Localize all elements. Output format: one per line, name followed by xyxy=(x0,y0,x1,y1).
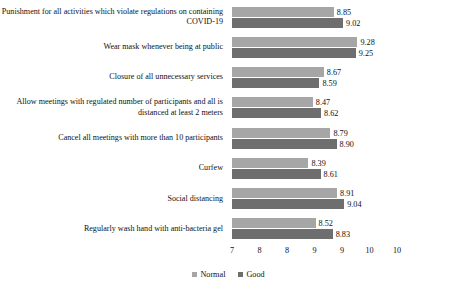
bar-good[interactable]: 8.83 xyxy=(232,229,397,239)
legend-item-good[interactable]: Good xyxy=(238,270,264,279)
bar-fill xyxy=(232,37,357,47)
axis-tick-label: 8 xyxy=(257,246,261,255)
category-label: Cancel all meetings with more than 10 pa… xyxy=(0,125,228,151)
bar-group: 8.398.61 xyxy=(232,155,397,181)
bar-normal[interactable]: 8.79 xyxy=(232,128,397,138)
bar-group: 8.859.02 xyxy=(232,4,397,30)
axis-tick-label: 9 xyxy=(312,246,316,255)
category-label: Closure of all unnecessary services xyxy=(0,65,228,91)
bar-fill xyxy=(232,18,343,28)
bar-value-label: 8.62 xyxy=(321,109,338,118)
category-label: Allow meetings with regulated number of … xyxy=(0,95,228,121)
bar-value-label: 8.52 xyxy=(316,219,333,228)
axis-tick-label: 7 xyxy=(230,246,234,255)
category-axis: Punishment for all activities which viol… xyxy=(0,4,228,242)
bar-good[interactable]: 8.90 xyxy=(232,139,397,149)
bar-fill xyxy=(232,128,330,138)
axis-tick-label: 10 xyxy=(393,246,401,255)
bar-good[interactable]: 9.02 xyxy=(232,18,397,28)
bar-value-label: 8.90 xyxy=(337,139,354,148)
bar-fill xyxy=(232,218,316,228)
bar-group: 8.678.59 xyxy=(232,65,397,91)
axis-tick-label: 9 xyxy=(340,246,344,255)
bar-normal[interactable]: 8.52 xyxy=(232,218,397,228)
bar-fill xyxy=(232,67,324,77)
bar-value-label: 8.67 xyxy=(324,68,341,77)
plot-area: 8.859.029.289.258.678.598.478.628.798.90… xyxy=(232,4,397,242)
category-label: Punishment for all activities which viol… xyxy=(0,4,228,30)
bar-good[interactable]: 8.62 xyxy=(232,108,397,118)
bar-fill xyxy=(232,199,344,209)
bar-group: 8.919.04 xyxy=(232,186,397,212)
bar-value-label: 8.61 xyxy=(321,169,338,178)
bar-fill xyxy=(232,229,333,239)
legend-swatch-icon xyxy=(192,272,197,277)
bar-fill xyxy=(232,188,337,198)
bar-group: 9.289.25 xyxy=(232,34,397,60)
bar-normal[interactable]: 9.28 xyxy=(232,37,397,47)
bar-fill xyxy=(232,97,313,107)
bar-good[interactable]: 8.59 xyxy=(232,78,397,88)
bar-value-label: 8.59 xyxy=(319,79,336,88)
category-label: Regularly wash hand with anti-bacteria g… xyxy=(0,216,228,242)
axis-tick-label: 8 xyxy=(285,246,289,255)
legend-swatch-icon xyxy=(238,272,243,277)
bar-fill xyxy=(232,78,319,88)
bar-chart: Punishment for all activities which viol… xyxy=(0,0,457,292)
bar-group: 8.478.62 xyxy=(232,95,397,121)
category-label: Curfew xyxy=(0,155,228,181)
chart-legend: NormalGood xyxy=(0,270,457,279)
bar-value-label: 9.25 xyxy=(356,48,373,57)
bar-fill xyxy=(232,169,321,179)
bar-fill xyxy=(232,7,334,17)
bar-group: 8.528.83 xyxy=(232,216,397,242)
axis-tick-label: 10 xyxy=(365,246,373,255)
legend-label: Good xyxy=(246,270,264,279)
bar-value-label: 9.04 xyxy=(344,200,361,209)
bar-normal[interactable]: 8.47 xyxy=(232,97,397,107)
bar-good[interactable]: 9.04 xyxy=(232,199,397,209)
bar-group: 8.798.90 xyxy=(232,125,397,151)
bar-value-label: 8.85 xyxy=(334,7,351,16)
bar-fill xyxy=(232,108,321,118)
bar-value-label: 8.91 xyxy=(337,189,354,198)
bar-value-label: 8.39 xyxy=(308,158,325,167)
bar-good[interactable]: 9.25 xyxy=(232,48,397,58)
bar-normal[interactable]: 8.67 xyxy=(232,67,397,77)
category-label: Wear mask whenever being at public xyxy=(0,34,228,60)
bar-fill xyxy=(232,139,337,149)
category-label: Social distancing xyxy=(0,186,228,212)
legend-label: Normal xyxy=(200,270,225,279)
bar-fill xyxy=(232,48,356,58)
bar-value-label: 8.47 xyxy=(313,98,330,107)
legend-item-normal[interactable]: Normal xyxy=(192,270,225,279)
bar-normal[interactable]: 8.91 xyxy=(232,188,397,198)
bar-normal[interactable]: 8.85 xyxy=(232,7,397,17)
bar-value-label: 8.79 xyxy=(330,128,347,137)
bar-good[interactable]: 8.61 xyxy=(232,169,397,179)
bar-normal[interactable]: 8.39 xyxy=(232,158,397,168)
bar-value-label: 9.28 xyxy=(357,37,374,46)
bar-value-label: 8.83 xyxy=(333,230,350,239)
bar-value-label: 9.02 xyxy=(343,18,360,27)
bar-fill xyxy=(232,158,308,168)
value-axis: 788991010 xyxy=(232,246,397,260)
